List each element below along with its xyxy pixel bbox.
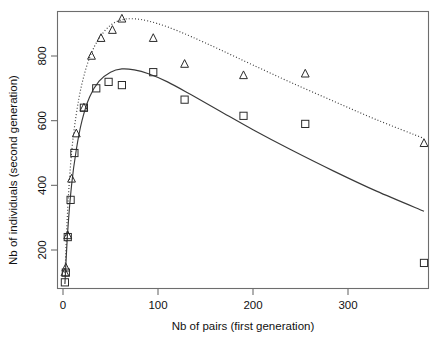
data-point-triangle bbox=[118, 14, 126, 22]
x-tick-label: 300 bbox=[338, 299, 357, 311]
y-axis-label: Nb of individuals (second generation) bbox=[7, 75, 19, 265]
x-axis-ticks: 0100200300 bbox=[60, 289, 358, 312]
data-point-triangle bbox=[149, 34, 157, 42]
chart-figure: Nb of individuals (second generation) Nb… bbox=[0, 0, 446, 342]
data-point-square bbox=[302, 120, 309, 127]
y-axis-ticks: 200400600800 bbox=[36, 46, 58, 259]
x-tick-label: 100 bbox=[148, 299, 167, 311]
data-point-triangle bbox=[240, 71, 248, 79]
data-point-triangle bbox=[88, 52, 96, 60]
squares-fit-curve bbox=[65, 69, 424, 284]
triangles-fit-curve bbox=[65, 19, 424, 276]
data-point-triangle bbox=[181, 60, 189, 68]
y-tick-label: 600 bbox=[36, 111, 48, 130]
y-tick-label: 400 bbox=[36, 176, 48, 195]
data-point-square bbox=[118, 82, 125, 89]
plot-frame bbox=[58, 12, 429, 289]
data-point-square bbox=[105, 78, 112, 85]
data-point-triangle bbox=[420, 139, 428, 147]
data-point-square bbox=[420, 259, 427, 266]
data-point-triangle bbox=[301, 69, 309, 77]
y-tick-label: 200 bbox=[36, 240, 48, 259]
x-axis-label: Nb of pairs (first generation) bbox=[172, 320, 315, 332]
data-point-square bbox=[71, 149, 78, 156]
triangles-data-points bbox=[61, 14, 428, 276]
scatter-plot: Nb of individuals (second generation) Nb… bbox=[0, 0, 446, 342]
y-tick-label: 800 bbox=[36, 46, 48, 65]
data-point-square bbox=[240, 112, 247, 119]
x-tick-label: 200 bbox=[243, 299, 262, 311]
data-point-square bbox=[181, 96, 188, 103]
data-point-triangle bbox=[109, 26, 117, 34]
x-tick-label: 0 bbox=[60, 299, 66, 311]
squares-data-points bbox=[61, 69, 427, 286]
